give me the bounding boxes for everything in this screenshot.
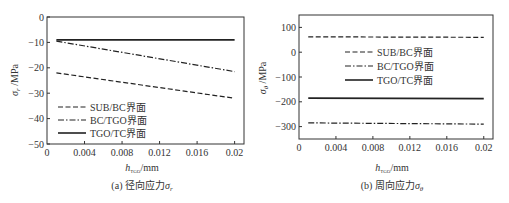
x-tick-label: 0.02 <box>475 142 493 153</box>
chart-hoop-stress: 1000−100−200−300 00.0040.0080.0120.0160.… <box>257 15 493 193</box>
legend-label: SUB/BC界面 <box>377 47 433 58</box>
x-tick-label: 0.02 <box>226 147 244 158</box>
legend: SUB/BC界面BC/TGO界面TGO/TC界面 <box>58 102 147 139</box>
series-line <box>308 123 484 124</box>
x-tick-label: 0.004 <box>73 147 96 158</box>
x-tick-label: 0.016 <box>436 142 459 153</box>
y-axis-ticks: 1000−100−200−300 <box>275 22 302 132</box>
y-tick-label: 0 <box>291 47 296 58</box>
y-tick-label: −30 <box>28 88 44 99</box>
y-axis-label: σr /MPa <box>9 64 22 96</box>
legend: SUB/BC界面BC/TGO界面TGO/TC界面 <box>345 47 434 86</box>
x-tick-label: 0.012 <box>399 142 422 153</box>
y-tick-label: −100 <box>275 72 296 83</box>
y-tick-label: −40 <box>28 113 44 124</box>
x-tick-label: 0 <box>45 147 50 158</box>
x-tick-label: 0.008 <box>111 147 134 158</box>
y-tick-label: −20 <box>28 62 44 73</box>
x-tick-label: 0 <box>297 142 302 153</box>
x-tick-label: 0.016 <box>186 147 209 158</box>
y-tick-label: 0 <box>39 12 44 23</box>
y-tick-label: −200 <box>275 96 296 107</box>
y-axis-label: σθ /MPa <box>257 61 270 94</box>
x-axis-label: hTGO/mm <box>375 162 409 174</box>
data-lines <box>56 40 234 98</box>
caption: (a) 径向应力σr <box>111 179 173 193</box>
x-tick-label: 0.004 <box>325 142 348 153</box>
x-axis-label: hTGO/mm <box>125 162 159 174</box>
x-tick-label: 0.008 <box>362 142 385 153</box>
caption: (b) 周向应力σθ <box>361 179 424 193</box>
legend-label: TGO/TC界面 <box>377 75 433 86</box>
y-tick-label: −50 <box>28 139 44 150</box>
y-tick-label: 100 <box>281 22 296 33</box>
figure: 0−10−20−30−40−50 00.0040.0080.0120.0160.… <box>0 0 509 203</box>
x-tick-label: 0.012 <box>148 147 171 158</box>
legend-label: BC/TGO界面 <box>90 115 147 126</box>
y-tick-label: −10 <box>28 37 44 48</box>
legend-label: TGO/TC界面 <box>90 128 146 139</box>
y-tick-label: −300 <box>275 121 296 132</box>
legend-label: SUB/BC界面 <box>90 102 146 113</box>
series-line <box>56 41 234 71</box>
series-line <box>56 73 234 98</box>
chart-radial-stress: 0−10−20−30−40−50 00.0040.0080.0120.0160.… <box>9 12 244 194</box>
legend-label: BC/TGO界面 <box>377 61 434 72</box>
